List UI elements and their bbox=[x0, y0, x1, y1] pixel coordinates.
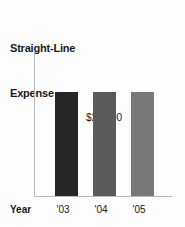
bar-fill bbox=[131, 92, 154, 196]
x-axis-title: Year bbox=[10, 204, 31, 215]
bar-fill bbox=[55, 92, 78, 196]
bar-fill bbox=[93, 92, 116, 196]
x-tick-label-05: '05 bbox=[126, 204, 152, 215]
plot-area bbox=[34, 50, 172, 196]
x-tick-label-03: '03 bbox=[50, 204, 76, 215]
straight-line-expense-chart: Straight-Line Expense $20,000 Year '03 '… bbox=[0, 0, 185, 227]
x-axis-line bbox=[34, 196, 172, 197]
bar-03 bbox=[55, 92, 78, 196]
x-tick-label-04: '04 bbox=[88, 204, 114, 215]
bar-04 bbox=[93, 92, 116, 196]
bar-05 bbox=[131, 92, 154, 196]
